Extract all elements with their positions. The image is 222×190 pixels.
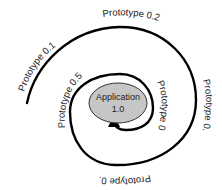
stage-label-0-6: Prototype 0.6 <box>0 0 171 132</box>
spiral-diagram: Application 1.0 Prototype 0.1 Prototype … <box>0 0 222 190</box>
application-label: Application <box>96 92 140 102</box>
stage-label-0-2: Prototype 0.2 <box>102 6 162 23</box>
application-node <box>89 83 147 123</box>
stage-label-0-1: Prototype 0.1 <box>16 39 58 92</box>
application-version: 1.0 <box>112 104 125 114</box>
